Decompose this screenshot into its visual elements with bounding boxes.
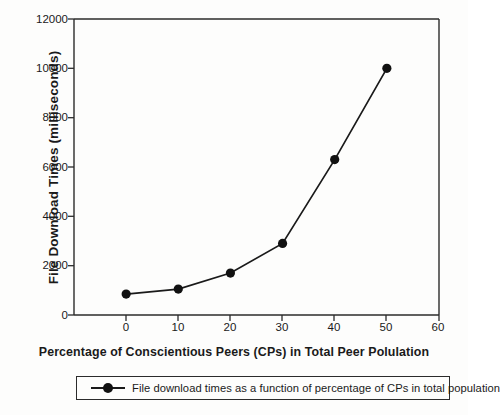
legend-entry-label: File download times as a function of per… <box>132 382 500 394</box>
axis-lines <box>74 19 439 315</box>
data-point-marker <box>226 268 235 277</box>
y-axis-ticks <box>68 19 74 315</box>
data-point-marker <box>382 64 391 73</box>
x-axis-ticks <box>126 315 439 321</box>
data-point-marker <box>122 289 131 298</box>
data-point-marker <box>174 285 183 294</box>
chart-legend: File download times as a function of per… <box>76 376 450 400</box>
data-series <box>122 64 392 299</box>
x-axis-title: Percentage of Conscientious Peers (CPs) … <box>0 345 468 359</box>
legend-marker-icon <box>91 382 125 394</box>
data-point-marker <box>278 239 287 248</box>
series-line <box>126 68 387 294</box>
data-point-marker <box>330 155 339 164</box>
